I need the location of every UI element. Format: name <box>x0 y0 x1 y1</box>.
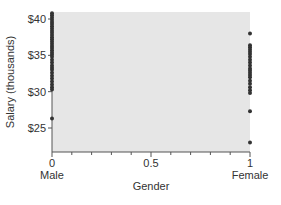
data-point-female <box>248 82 252 86</box>
scatter-chart: $25$30$35$40 0Male0.51Female Salary (tho… <box>0 0 281 205</box>
x-tick-label: 0.5 <box>143 157 158 169</box>
x-tick-label: 1 <box>247 157 253 169</box>
y-axis-title: Salary (thousands) <box>4 36 16 128</box>
plot-area <box>52 12 250 152</box>
y-tick-label: $40 <box>28 13 46 25</box>
x-category-label: Male <box>40 169 64 181</box>
data-point-male <box>50 87 54 91</box>
x-category-label: Female <box>232 169 269 181</box>
y-tick-label: $30 <box>28 86 46 98</box>
y-tick-label: $35 <box>28 49 46 61</box>
x-tick-label: 0 <box>49 157 55 169</box>
data-point-female <box>248 32 252 36</box>
data-point-male <box>50 117 54 121</box>
data-point-female <box>248 141 252 145</box>
x-axis: 0Male0.51Female <box>40 152 268 181</box>
data-point-female <box>248 91 252 95</box>
y-axis: $25$30$35$40 <box>28 12 52 152</box>
data-point-female <box>248 75 252 79</box>
y-tick-label: $25 <box>28 122 46 134</box>
data-point-female <box>248 109 252 113</box>
x-axis-title: Gender <box>133 180 170 192</box>
